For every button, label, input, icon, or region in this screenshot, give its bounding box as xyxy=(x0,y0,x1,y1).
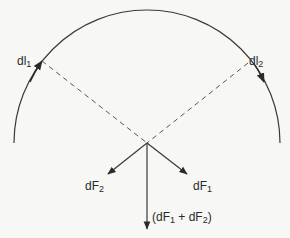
label-dF1: dF1 xyxy=(193,180,212,194)
label-dl1: dl1 xyxy=(17,55,31,69)
label-dF2: dF2 xyxy=(85,180,104,194)
diagram-canvas xyxy=(0,0,290,238)
dF2-vector-icon xyxy=(108,143,147,174)
dashed-line-1 xyxy=(42,61,147,143)
label-dl2: dl2 xyxy=(249,55,263,69)
dF1-vector-icon xyxy=(147,143,187,174)
current-loop-arc xyxy=(14,10,280,143)
dl1-arrow-icon xyxy=(30,61,42,82)
label-resultant: (dF1 + dF2) xyxy=(152,211,212,225)
dashed-line-2 xyxy=(147,63,248,143)
